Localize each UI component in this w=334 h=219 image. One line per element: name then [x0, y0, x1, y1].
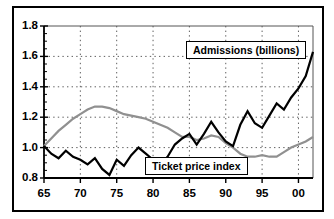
line-chart-plot	[0, 0, 334, 219]
chart-figure: 0.81.01.21.41.61.8 6570758085909500 Admi…	[0, 0, 334, 219]
x-tick-label: 90	[212, 188, 240, 200]
x-tick-label: 85	[175, 188, 203, 200]
y-tick-label: 0.8	[8, 172, 38, 184]
x-tick-label: 00	[284, 188, 312, 200]
y-tick-label: 1.4	[8, 81, 38, 93]
admissions-callout: Admissions (billions)	[186, 41, 306, 59]
y-tick-label: 1.2	[8, 111, 38, 123]
x-tick-label: 75	[103, 188, 131, 200]
x-tick-label: 65	[30, 188, 58, 200]
y-tick-label: 1.0	[8, 142, 38, 154]
x-tick-label: 80	[139, 188, 167, 200]
x-tick-label: 95	[248, 188, 276, 200]
y-tick-label: 1.8	[8, 20, 38, 32]
ticket-price-callout: Ticket price index	[145, 157, 248, 175]
y-tick-label: 1.6	[8, 50, 38, 62]
x-tick-label: 70	[66, 188, 94, 200]
